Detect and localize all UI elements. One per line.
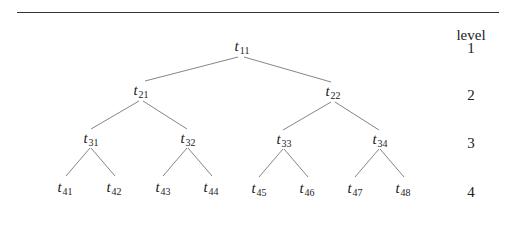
- edge-t32-t43: [163, 148, 187, 176]
- level-1-label: 1: [467, 40, 475, 57]
- node-subscript: 48: [401, 187, 411, 198]
- node-base: t: [372, 131, 376, 147]
- node-base: t: [395, 180, 399, 196]
- edge-t33-t45: [259, 149, 283, 177]
- edge-t33-t46: [284, 149, 308, 177]
- node-base: t: [299, 180, 303, 196]
- edge-t21-t32: [143, 101, 187, 129]
- node-subscript: 45: [257, 187, 267, 198]
- node-subscript: 21: [139, 89, 149, 100]
- node-subscript: 47: [353, 187, 363, 198]
- edge-t11-t21: [145, 57, 238, 81]
- node-subscript: 44: [209, 186, 219, 197]
- level-3-label: 3: [467, 135, 475, 152]
- node-base: t: [106, 179, 110, 195]
- node-subscript: 11: [240, 45, 250, 56]
- node-base: t: [235, 38, 239, 54]
- node-base: t: [180, 130, 184, 146]
- node-t11: t11: [235, 38, 250, 56]
- node-base: t: [155, 179, 159, 195]
- node-t46: t46: [299, 180, 314, 198]
- node-subscript: 41: [63, 186, 73, 197]
- node-base: t: [325, 83, 329, 99]
- node-base: t: [83, 130, 87, 146]
- node-t47: t47: [347, 180, 362, 198]
- node-base: t: [347, 180, 351, 196]
- node-t22: t22: [325, 83, 340, 101]
- node-base: t: [251, 180, 255, 196]
- node-subscript: 34: [378, 138, 388, 149]
- node-base: t: [203, 179, 207, 195]
- node-t43: t43: [155, 179, 170, 197]
- edge-t21-t31: [91, 101, 139, 129]
- node-t41: t41: [57, 179, 72, 197]
- node-subscript: 46: [305, 187, 315, 198]
- node-subscript: 32: [186, 137, 196, 148]
- edge-t34-t48: [380, 149, 404, 177]
- edge-t22-t34: [335, 102, 379, 130]
- node-t21: t21: [133, 82, 148, 100]
- edge-t22-t33: [283, 102, 331, 130]
- node-subscript: 43: [161, 186, 171, 197]
- edge-t11-t22: [244, 57, 331, 82]
- edge-t32-t44: [188, 148, 212, 176]
- edge-t31-t42: [91, 148, 115, 176]
- node-t45: t45: [251, 180, 266, 198]
- node-subscript: 42: [112, 186, 122, 197]
- node-base: t: [276, 131, 280, 147]
- node-t33: t33: [276, 131, 291, 149]
- node-t48: t48: [395, 180, 410, 198]
- node-t42: t42: [106, 179, 121, 197]
- node-t31: t31: [83, 130, 98, 148]
- node-t34: t34: [372, 131, 387, 149]
- level-2-label: 2: [467, 87, 475, 104]
- node-base: t: [57, 179, 61, 195]
- edge-t31-t41: [66, 148, 90, 176]
- node-subscript: 33: [282, 138, 292, 149]
- edge-t34-t47: [355, 149, 379, 177]
- node-subscript: 22: [331, 90, 341, 101]
- level-4-label: 4: [467, 184, 475, 201]
- node-t32: t32: [180, 130, 195, 148]
- node-base: t: [133, 82, 137, 98]
- node-t44: t44: [203, 179, 218, 197]
- node-subscript: 31: [89, 137, 99, 148]
